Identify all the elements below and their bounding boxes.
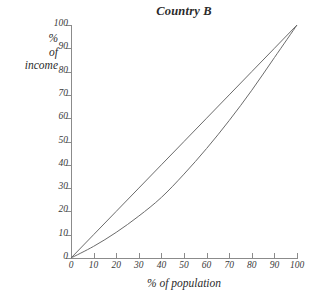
y-axis-title-line-2: of	[2, 46, 58, 60]
x-tick-label: 10	[89, 260, 99, 270]
x-axis-title: % of population	[71, 277, 297, 289]
lorenz-curve-figure: Country B % of income 010203040506070809…	[0, 0, 320, 301]
x-tick-label: 70	[224, 260, 234, 270]
x-tick-label: 20	[111, 260, 121, 270]
x-tick-label: 80	[247, 260, 257, 270]
y-tick-label: 90	[59, 41, 69, 51]
x-tick-label: 40	[157, 260, 167, 270]
x-tick-label: 60	[202, 260, 212, 270]
y-tick-label: 30	[59, 181, 69, 191]
y-axis-title-line-3: income	[2, 59, 58, 73]
y-tick-label: 20	[59, 204, 69, 214]
y-tick-label: 100	[54, 18, 68, 28]
y-tick-label: 40	[59, 158, 69, 168]
y-axis-title-line-1: %	[2, 32, 58, 46]
y-tick-label: 10	[59, 228, 69, 238]
x-tick-label: 30	[134, 260, 144, 270]
y-axis-title: % of income	[2, 32, 58, 73]
x-tick-label: 50	[179, 260, 189, 270]
y-tick-label: 80	[59, 65, 69, 75]
y-tick-label: 70	[59, 88, 69, 98]
x-tick-label: 90	[270, 260, 280, 270]
x-tick-label: 100	[290, 260, 304, 270]
x-tick-label: 0	[69, 260, 74, 270]
curve-layer	[71, 25, 298, 259]
series-line-of-equality	[71, 25, 297, 258]
y-tick-label: 60	[59, 111, 69, 121]
plot-area: 0102030405060708090100 01020304050607080…	[71, 25, 297, 258]
chart-title: Country B	[71, 4, 297, 19]
y-tick-label: 50	[59, 135, 69, 145]
y-tick-label: 0	[63, 251, 68, 261]
